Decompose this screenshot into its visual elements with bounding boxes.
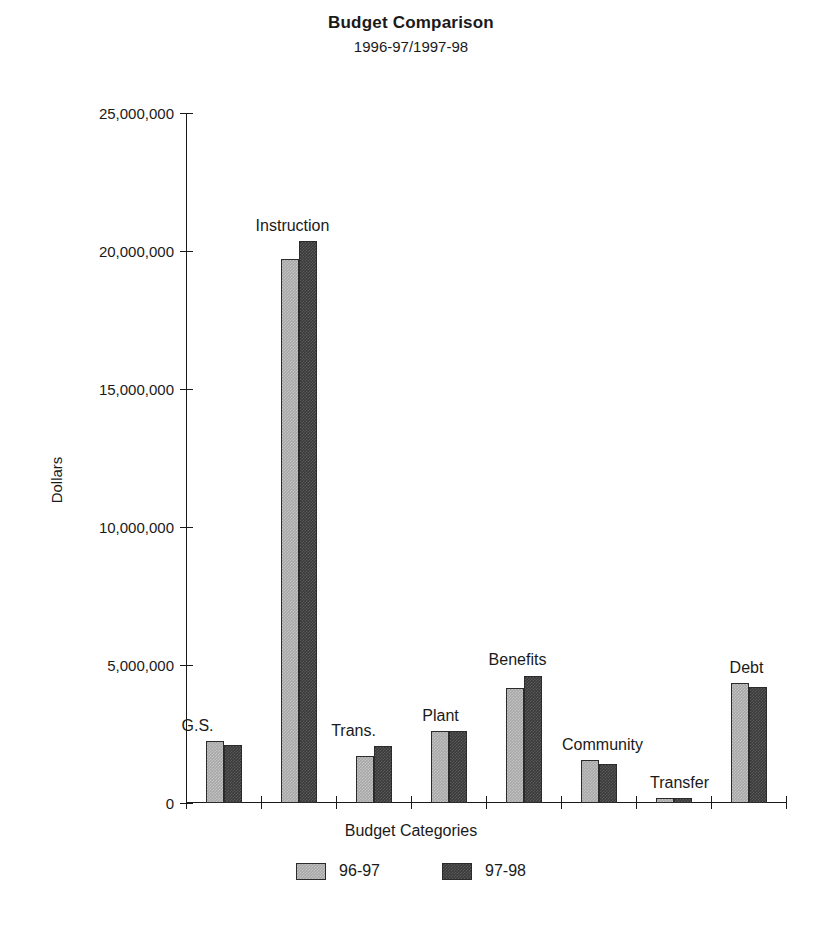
bar-community-96-97 (581, 760, 599, 803)
chart-title: Budget Comparison (0, 12, 822, 34)
x-tick (336, 796, 337, 809)
legend-swatch-96-97 (296, 863, 326, 880)
chart-title-block: Budget Comparison 1996-97/1997-98 (0, 12, 822, 58)
bar-group-label: Trans. (331, 722, 376, 740)
x-tick (411, 796, 412, 809)
bar-instruction-96-97 (281, 259, 299, 803)
y-tick-label: 10,000,000 (99, 520, 174, 535)
bar-debt-97-98 (749, 687, 767, 803)
bar-trans-97-98 (374, 746, 392, 803)
legend-label: 96-97 (339, 862, 380, 880)
chart-legend: 96-9797-98 (0, 862, 822, 880)
x-tick (561, 796, 562, 809)
x-tick (786, 796, 787, 809)
bar-plant-97-98 (449, 731, 467, 803)
y-tick-label: 0 (166, 796, 174, 811)
bar-g-s-97-98 (224, 745, 242, 803)
bar-group-label: Transfer (650, 774, 709, 792)
bar-benefits-97-98 (524, 676, 542, 804)
y-tick-label: 5,000,000 (107, 658, 174, 673)
y-axis-label: Dollars (48, 457, 65, 504)
bar-benefits-96-97 (506, 688, 524, 803)
bar-group-label: Debt (730, 659, 764, 677)
bar-group-label: Benefits (489, 651, 547, 669)
bar-group-label: Community (562, 736, 643, 754)
y-tick-label: 15,000,000 (99, 382, 174, 397)
bar-transfer-96-97 (656, 798, 674, 803)
x-tick (186, 796, 187, 809)
y-tick (180, 251, 193, 252)
legend-item: 97-98 (442, 862, 526, 880)
legend-item: 96-97 (296, 862, 380, 880)
x-axis-label: Budget Categories (0, 822, 822, 840)
y-axis-line (186, 113, 187, 803)
bar-plant-96-97 (431, 731, 449, 803)
bar-community-97-98 (599, 764, 617, 803)
x-tick (261, 796, 262, 809)
bar-group-label: Plant (422, 707, 458, 725)
bar-debt-96-97 (731, 683, 749, 803)
y-tick (180, 113, 193, 114)
x-tick (636, 796, 637, 809)
chart-subtitle: 1996-97/1997-98 (0, 36, 822, 58)
bar-group-label: Instruction (256, 217, 330, 235)
bar-trans-96-97 (356, 756, 374, 803)
y-tick-label: 25,000,000 (99, 106, 174, 121)
x-tick (486, 796, 487, 809)
y-tick (180, 665, 193, 666)
budget-comparison-chart: Budget Comparison 1996-97/1997-98 Dollar… (0, 0, 822, 933)
bar-transfer-97-98 (674, 798, 692, 803)
legend-swatch-97-98 (442, 863, 472, 880)
bar-instruction-97-98 (299, 241, 317, 803)
x-tick (711, 796, 712, 809)
plot-area: 05,000,00010,000,00015,000,00020,000,000… (186, 113, 786, 803)
bar-g-s-96-97 (206, 741, 224, 803)
legend-label: 97-98 (485, 862, 526, 880)
y-tick (180, 527, 193, 528)
y-tick-label: 20,000,000 (99, 244, 174, 259)
y-tick (180, 389, 193, 390)
bar-group-label: G.S. (181, 717, 213, 735)
